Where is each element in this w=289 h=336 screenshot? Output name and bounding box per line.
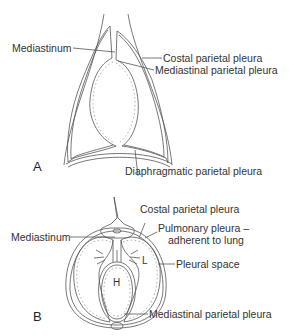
label-b-lung: L [142, 255, 148, 266]
label-b-mediastinum: Mediastinum [11, 231, 71, 243]
panel-a-letter: A [33, 159, 42, 174]
label-b-pulmonary-pleura-line1: Pulmonary pleura – [158, 222, 249, 234]
label-b-mediastinal-parietal-pleura: Mediastinal parietal pleura [149, 308, 272, 320]
label-b-heart: H [113, 277, 120, 288]
panel-b-leaders [70, 223, 175, 314]
label-a-mediastinal-parietal-pleura: Mediastinal parietal pleura [155, 64, 278, 76]
label-a-mediastinum: Mediastinum [12, 42, 72, 54]
label-a-diaphragmatic-parietal-pleura: Diaphragmatic parietal pleura [125, 165, 262, 177]
label-b-pleural-space: Pleural space [176, 258, 240, 270]
panel-b-letter: B [33, 309, 42, 324]
label-a-costal-parietal-pleura: Costal parietal pleura [163, 52, 262, 64]
label-b-pulmonary-pleura-line2: adherent to lung [168, 234, 244, 246]
label-b-costal-parietal-pleura: Costal parietal pleura [140, 203, 239, 215]
panel-a-heart-dashes [93, 62, 135, 143]
panel-a-drawing [64, 14, 172, 167]
